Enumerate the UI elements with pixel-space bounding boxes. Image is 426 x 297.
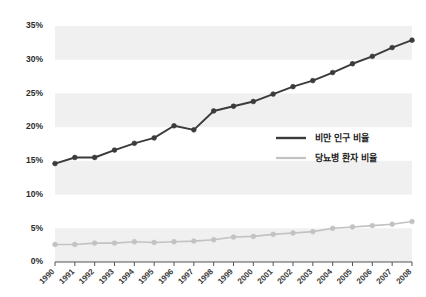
data-point-marker bbox=[152, 240, 157, 245]
x-axis-tick-label: 1995 bbox=[137, 267, 156, 286]
y-axis-tick-label: 35% bbox=[26, 20, 43, 30]
data-point-marker bbox=[310, 78, 315, 83]
y-axis-tick-label: 10% bbox=[26, 189, 43, 199]
data-point-marker bbox=[211, 237, 216, 242]
line-chart: 0%5%10%15%20%25%30%35% 19901991199219931… bbox=[0, 0, 426, 297]
y-axis-tick-label: 20% bbox=[26, 121, 43, 131]
data-point-marker bbox=[271, 92, 276, 97]
background-band bbox=[55, 228, 412, 262]
y-axis-tick-label: 25% bbox=[26, 88, 43, 98]
data-point-marker bbox=[291, 84, 296, 89]
data-point-marker bbox=[231, 235, 236, 240]
x-axis-tick-label: 1997 bbox=[176, 267, 195, 286]
x-axis-tick-label: 1993 bbox=[97, 267, 116, 286]
y-axis-tick-label: 5% bbox=[31, 223, 44, 233]
data-point-marker bbox=[191, 239, 196, 244]
data-point-marker bbox=[72, 242, 77, 247]
chart-legend: 비만 인구 비율당뇨병 환자 비율 bbox=[276, 132, 377, 163]
data-point-marker bbox=[231, 104, 236, 109]
data-point-marker bbox=[291, 231, 296, 236]
x-axis bbox=[55, 262, 412, 266]
y-axis-tick-label: 0% bbox=[31, 256, 44, 266]
data-point-marker bbox=[211, 109, 216, 114]
data-point-marker bbox=[132, 239, 137, 244]
data-point-marker bbox=[191, 127, 196, 132]
data-point-marker bbox=[92, 241, 97, 246]
legend-item-label: 당뇨병 환자 비율 bbox=[315, 152, 377, 163]
x-axis-tick-label: 2008 bbox=[394, 267, 413, 286]
data-point-marker bbox=[370, 223, 375, 228]
data-point-marker bbox=[330, 226, 335, 231]
x-axis-tick-label: 2004 bbox=[315, 267, 334, 286]
x-axis-tick-label: 1992 bbox=[77, 267, 96, 286]
x-axis-tick-label: 2007 bbox=[375, 267, 394, 286]
data-point-marker bbox=[72, 155, 77, 160]
data-point-marker bbox=[172, 123, 177, 128]
background-band bbox=[55, 93, 412, 127]
data-point-marker bbox=[132, 141, 137, 146]
x-axis-tick-label: 2001 bbox=[256, 267, 275, 286]
x-axis-tick-label: 1996 bbox=[156, 267, 175, 286]
x-axis-tick-label: 2003 bbox=[295, 267, 314, 286]
data-point-marker bbox=[92, 155, 97, 160]
data-point-marker bbox=[112, 241, 117, 246]
chart-container: 0%5%10%15%20%25%30%35% 19901991199219931… bbox=[0, 0, 426, 297]
x-axis-tick-label: 2002 bbox=[275, 267, 294, 286]
x-axis-tick-label: 2000 bbox=[236, 267, 255, 286]
x-axis-tick-label: 1991 bbox=[57, 267, 76, 286]
x-axis-tick-label: 2006 bbox=[355, 267, 374, 286]
data-point-marker bbox=[350, 61, 355, 66]
legend-item-label: 비만 인구 비율 bbox=[315, 132, 369, 143]
data-point-marker bbox=[410, 219, 415, 224]
y-axis-tick-label: 15% bbox=[26, 155, 43, 165]
data-point-marker bbox=[112, 148, 117, 153]
data-point-marker bbox=[53, 161, 58, 166]
data-point-marker bbox=[271, 232, 276, 237]
x-axis-tick-label: 1994 bbox=[117, 267, 136, 286]
x-axis-tick-label: 2005 bbox=[335, 267, 354, 286]
data-point-marker bbox=[251, 234, 256, 239]
y-axis-tick-label: 30% bbox=[26, 54, 43, 64]
y-axis-tick-labels: 0%5%10%15%20%25%30%35% bbox=[26, 20, 43, 266]
data-point-marker bbox=[390, 222, 395, 227]
data-point-marker bbox=[330, 70, 335, 75]
x-axis-tick-label: 1999 bbox=[216, 267, 235, 286]
data-point-marker bbox=[310, 229, 315, 234]
data-point-marker bbox=[251, 99, 256, 104]
data-point-marker bbox=[370, 54, 375, 59]
data-point-marker bbox=[172, 239, 177, 244]
data-point-marker bbox=[53, 242, 58, 247]
background-band bbox=[55, 26, 412, 60]
data-point-marker bbox=[152, 136, 157, 141]
x-axis-tick-label: 1990 bbox=[37, 267, 56, 286]
data-point-marker bbox=[410, 38, 415, 43]
data-point-marker bbox=[350, 225, 355, 230]
x-axis-tick-label: 1998 bbox=[196, 267, 215, 286]
data-point-marker bbox=[390, 45, 395, 50]
x-axis-tick-labels: 1990199119921993199419951996199719981999… bbox=[37, 267, 413, 286]
background-band bbox=[55, 161, 412, 195]
